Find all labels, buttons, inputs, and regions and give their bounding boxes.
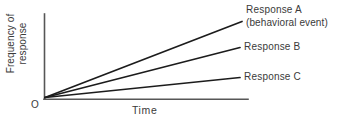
y-axis-label-line-2: response <box>16 4 28 84</box>
series-label-response-a-name: Response A <box>246 4 302 15</box>
series-label-response-c: Response C <box>244 71 301 83</box>
series-line-response-c <box>45 78 240 98</box>
y-axis-label-line-1: Frequency of <box>5 4 17 84</box>
series-label-response-a-annotation: (behavioral event) <box>246 17 328 30</box>
series-label-response-a: Response A (behavioral event) <box>246 4 328 29</box>
series-line-response-a <box>45 22 242 98</box>
line-chart-figure: Frequency of response Time O Response A … <box>0 0 347 123</box>
series-label-response-b: Response B <box>244 41 300 53</box>
y-axis-label: Frequency of response <box>5 4 28 84</box>
x-axis-label: Time <box>132 104 157 116</box>
series-line-response-b <box>45 48 240 98</box>
origin-label: O <box>31 99 39 111</box>
